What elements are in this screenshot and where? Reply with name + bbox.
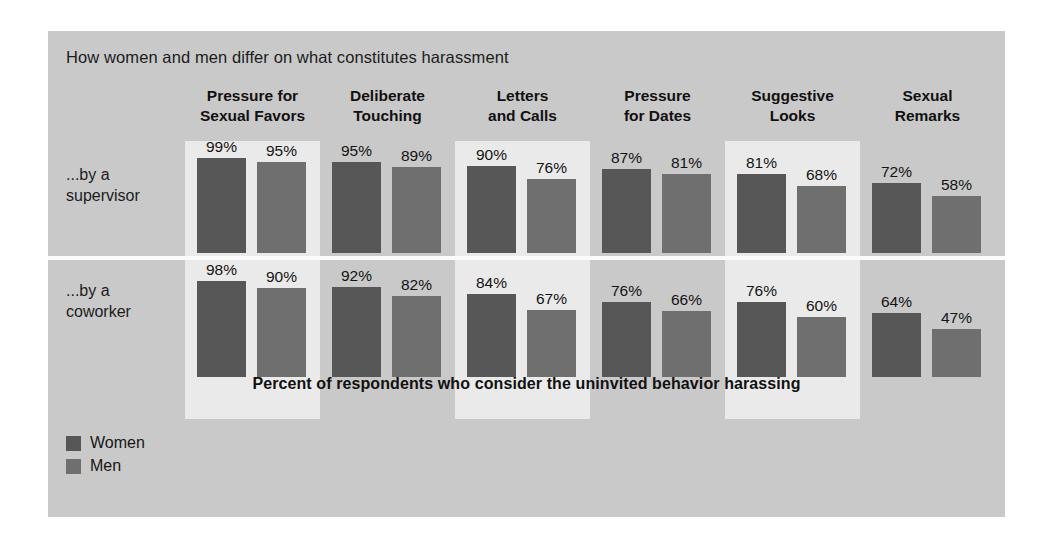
bar-rect (527, 310, 576, 377)
bar-group: 72%58% (860, 140, 995, 256)
bar-value-label: 64% (868, 293, 925, 311)
bar-rect (527, 179, 576, 253)
bar-value-label: 90% (463, 146, 520, 164)
bar-group: 98%90% (185, 262, 320, 380)
bar-group: 76%60% (725, 262, 860, 380)
bar-rect (662, 174, 711, 253)
bar-rect (737, 174, 786, 253)
legend-label: Women (90, 434, 145, 452)
column-header: SuggestiveLooks (725, 86, 860, 126)
bar-rect (797, 186, 846, 253)
row-label-line: ...by a (66, 165, 140, 186)
row-label-coworker: ...by acoworker (66, 281, 131, 323)
legend-swatch-icon (66, 459, 81, 474)
row-divider (48, 256, 1005, 260)
column-header-line: Remarks (860, 106, 995, 126)
column-header-line: and Calls (455, 106, 590, 126)
bar-rect (257, 162, 306, 253)
legend-label: Men (90, 457, 121, 475)
bar-value-label: 67% (523, 290, 580, 308)
legend-swatch-icon (66, 436, 81, 451)
bar-group: 84%67% (455, 262, 590, 380)
bar-value-label: 99% (193, 138, 250, 156)
bar-value-label: 98% (193, 261, 250, 279)
bar-rect (332, 162, 381, 253)
column-header-line: Looks (725, 106, 860, 126)
bar-rect (737, 302, 786, 377)
bar-value-label: 76% (598, 282, 655, 300)
bar-value-label: 89% (388, 147, 445, 165)
row-label-line: ...by a (66, 281, 131, 302)
chart-title: How women and men differ on what constit… (66, 48, 509, 67)
bar-rect (332, 287, 381, 377)
bar-rect (662, 311, 711, 377)
bar-value-label: 84% (463, 274, 520, 292)
bar-value-label: 60% (793, 297, 850, 315)
row-label-line: supervisor (66, 186, 140, 207)
bar-group: 64%47% (860, 262, 995, 380)
column-header: Lettersand Calls (455, 86, 590, 126)
bar-value-label: 95% (328, 142, 385, 160)
bar-rect (392, 296, 441, 377)
legend-item: Men (66, 457, 145, 475)
bar-value-label: 92% (328, 267, 385, 285)
bar-rect (932, 329, 981, 377)
bar-group: 81%68% (725, 140, 860, 256)
bar-rect (392, 167, 441, 253)
bar-rect (467, 166, 516, 253)
column-header-line: Sexual Favors (185, 106, 320, 126)
column-header-line: Suggestive (725, 86, 860, 106)
bar-group: 76%66% (590, 262, 725, 380)
column-header-line: Pressure (590, 86, 725, 106)
bar-value-label: 82% (388, 276, 445, 294)
column-header: DeliberateTouching (320, 86, 455, 126)
bar-value-label: 76% (733, 282, 790, 300)
bar-rect (197, 281, 246, 377)
row-label-line: coworker (66, 302, 131, 323)
column-header-line: Sexual (860, 86, 995, 106)
bar-group: 87%81% (590, 140, 725, 256)
bar-value-label: 47% (928, 309, 985, 327)
bar-rect (602, 302, 651, 377)
bar-value-label: 76% (523, 159, 580, 177)
bar-value-label: 68% (793, 166, 850, 184)
column-header-line: for Dates (590, 106, 725, 126)
column-header: SexualRemarks (860, 86, 995, 126)
column-header: Pressurefor Dates (590, 86, 725, 126)
bar-rect (467, 294, 516, 377)
bar-rect (872, 313, 921, 377)
legend-item: Women (66, 434, 145, 452)
column-header: Pressure forSexual Favors (185, 86, 320, 126)
chart-caption: Percent of respondents who consider the … (48, 375, 1005, 393)
column-header-line: Deliberate (320, 86, 455, 106)
column-header-line: Touching (320, 106, 455, 126)
bar-value-label: 95% (253, 142, 310, 160)
bar-value-label: 81% (733, 154, 790, 172)
bar-group: 92%82% (320, 262, 455, 380)
column-header-line: Letters (455, 86, 590, 106)
bar-value-label: 58% (928, 176, 985, 194)
row-label-supervisor: ...by asupervisor (66, 165, 140, 207)
bar-group: 99%95% (185, 140, 320, 256)
bar-value-label: 66% (658, 291, 715, 309)
bar-rect (197, 158, 246, 253)
chart-legend: WomenMen (66, 434, 145, 480)
bar-rect (872, 183, 921, 253)
bar-rect (602, 169, 651, 253)
bar-rect (797, 317, 846, 377)
column-header-line: Pressure for (185, 86, 320, 106)
bar-group: 95%89% (320, 140, 455, 256)
bar-value-label: 81% (658, 154, 715, 172)
bar-rect (257, 288, 306, 377)
bar-value-label: 90% (253, 268, 310, 286)
bar-value-label: 87% (598, 149, 655, 167)
bar-group: 90%76% (455, 140, 590, 256)
bar-value-label: 72% (868, 163, 925, 181)
bar-rect (932, 196, 981, 253)
